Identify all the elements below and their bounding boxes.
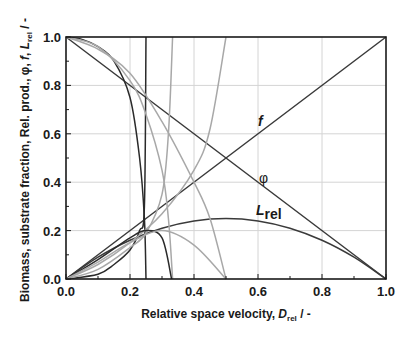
label-f: f: [258, 113, 264, 129]
y-tick-label: 0.2: [43, 224, 61, 239]
y-tick-label: 0.6: [43, 127, 61, 142]
y-axis-label: Biomass, substrate fraction, Rel. prod.,…: [18, 18, 34, 302]
data-curves: [66, 37, 386, 279]
label-lrel: Lrel: [256, 202, 282, 222]
x-tick-label: 0.2: [121, 284, 139, 299]
y-tick-label: 1.0: [43, 30, 61, 45]
y-tick-label: 0.0: [43, 272, 61, 287]
x-tick-label: 1.0: [377, 284, 395, 299]
x-tick-label: 0.8: [313, 284, 331, 299]
y-tick-labels: 0.00.20.40.60.81.0: [43, 30, 62, 287]
x-axis-label: Relative space velocity, Drel / -: [141, 307, 311, 323]
y-tick-label: 0.4: [43, 175, 62, 190]
x-tick-labels: 0.00.20.40.60.81.0: [57, 284, 395, 299]
series-biomass-dmax-0-333-: [66, 37, 173, 279]
chart: 0.00.20.40.60.81.0 0.00.20.40.60.81.0 f …: [0, 0, 414, 340]
series-biomass-dmax-0-25-: [66, 37, 146, 279]
x-tick-label: 0.6: [249, 284, 267, 299]
label-phi: φ: [259, 170, 268, 186]
series-substrate-fraction-dmax-0-333-: [66, 37, 173, 279]
y-tick-label: 0.8: [43, 78, 61, 93]
x-tick-label: 0.4: [185, 284, 204, 299]
